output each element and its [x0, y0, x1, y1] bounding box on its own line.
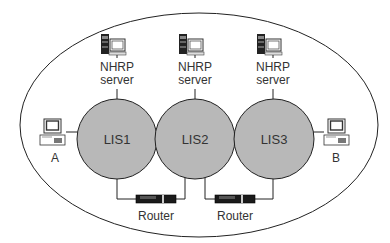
workstation-icon: [324, 119, 349, 145]
nhrp-server-2: NHRP server: [178, 34, 212, 87]
lis3-label: LIS3: [261, 132, 288, 147]
nhrp-server-3: NHRP server: [256, 34, 290, 87]
lis1-subnet: LIS1: [77, 99, 157, 179]
server-icon: [179, 34, 204, 55]
server-icon: [101, 34, 126, 55]
server-1-label-line2: server: [100, 73, 133, 87]
server-2-label-line2: server: [178, 73, 211, 87]
router-2-label: Router: [217, 209, 253, 223]
lis2-label: LIS2: [182, 132, 209, 147]
host-b-label: B: [332, 151, 340, 165]
lis1-label: LIS1: [104, 132, 131, 147]
server-2-label-line1: NHRP: [178, 60, 212, 74]
server-icon: [257, 34, 282, 55]
router-1-label: Router: [138, 209, 174, 223]
router-icon: [215, 195, 255, 203]
router-2: Router: [215, 195, 255, 223]
workstation-icon: [40, 119, 65, 145]
server-3-label-line2: server: [256, 73, 289, 87]
server-1-label-line1: NHRP: [100, 60, 134, 74]
lis3-subnet: LIS3: [234, 99, 314, 179]
router-1: Router: [136, 195, 176, 223]
nhrp-network-diagram: LIS1 LIS2 LIS3 NHRP server NHRP server N…: [0, 0, 390, 243]
host-a: A: [40, 119, 65, 165]
server-3-label-line1: NHRP: [256, 60, 290, 74]
nhrp-server-1: NHRP server: [100, 34, 134, 87]
host-b: B: [324, 119, 349, 165]
host-a-label: A: [51, 151, 59, 165]
lis2-subnet: LIS2: [155, 99, 235, 179]
router-icon: [136, 195, 176, 203]
